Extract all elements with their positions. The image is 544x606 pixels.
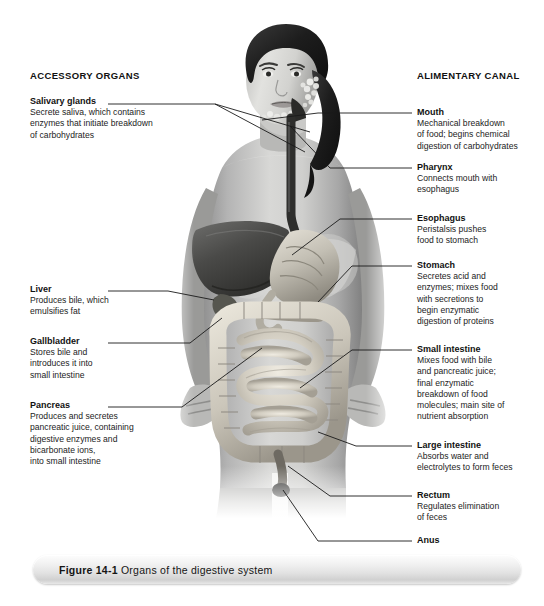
callout-description: Absorbs water and electrolytes to form f… <box>417 451 513 474</box>
callout-description: Secretes acid and enzymes; mixes food wi… <box>417 271 498 327</box>
callout-description: Connects mouth with esophagus <box>417 173 497 196</box>
figure-caption: Figure 14-1 Organs of the digestive syst… <box>33 564 273 576</box>
callout-pancreas[interactable]: Pancreas Produces and secretes pancreati… <box>30 400 134 467</box>
callout-description: Mixes food with bile and pancreatic juic… <box>417 355 504 423</box>
callout-small-intestine[interactable]: Small intestine Mixes food with bile and… <box>417 344 504 423</box>
callout-description: Secrete saliva, which contains enzymes t… <box>30 107 153 141</box>
figure-number: Figure 14-1 <box>59 564 118 576</box>
callout-stomach[interactable]: Stomach Secretes acid and enzymes; mixes… <box>417 260 498 327</box>
callout-term: Anus <box>417 535 440 546</box>
callout-term: Liver <box>30 284 109 295</box>
callout-term: Pharynx <box>417 162 497 173</box>
figure-title: Organs of the digestive system <box>121 564 273 576</box>
callout-anus[interactable]: Anus <box>417 535 440 546</box>
alimentary-canal-header: ALIMENTARY CANAL <box>417 70 520 81</box>
callout-term: Small intestine <box>417 344 504 355</box>
figure-caption-bar: Figure 14-1 Organs of the digestive syst… <box>33 555 521 584</box>
callout-large-intestine[interactable]: Large intestine Absorbs water and electr… <box>417 440 513 474</box>
accessory-organs-header: ACCESSORY ORGANS <box>30 70 140 81</box>
callout-pharynx[interactable]: Pharynx Connects mouth with esophagus <box>417 162 497 196</box>
callout-term: Rectum <box>417 490 499 501</box>
anatomy-illustration <box>160 18 400 518</box>
callout-mouth[interactable]: Mouth Mechanical breakdown of food; begi… <box>417 107 518 152</box>
callout-description: Produces and secretes pancreatic juice, … <box>30 411 134 467</box>
callout-term: Gallbladder <box>30 336 93 347</box>
figure-page: ACCESSORY ORGANS ALIMENTARY CANAL Saliva… <box>0 0 544 606</box>
callout-esophagus[interactable]: Esophagus Peristalsis pushes food to sto… <box>417 213 486 247</box>
callout-description: Produces bile, which emulsifies fat <box>30 295 109 318</box>
callout-term: Stomach <box>417 260 498 271</box>
callout-term: Salivary glands <box>30 96 153 107</box>
callout-gallbladder[interactable]: Gallbladder Stores bile and introduces i… <box>30 336 93 381</box>
callout-term: Pancreas <box>30 400 134 411</box>
callout-term: Large intestine <box>417 440 513 451</box>
callout-rectum[interactable]: Rectum Regulates elimination of feces <box>417 490 499 524</box>
callout-term: Mouth <box>417 107 518 118</box>
callout-description: Peristalsis pushes food to stomach <box>417 224 486 247</box>
callout-liver[interactable]: Liver Produces bile, which emulsifies fa… <box>30 284 109 318</box>
callout-description: Regulates elimination of feces <box>417 501 499 524</box>
callout-description: Mechanical breakdown of food; begins che… <box>417 118 518 152</box>
callout-salivary-glands[interactable]: Salivary glands Secrete saliva, which co… <box>30 96 153 141</box>
callout-description: Stores bile and introduces it into small… <box>30 347 93 381</box>
callout-term: Esophagus <box>417 213 486 224</box>
